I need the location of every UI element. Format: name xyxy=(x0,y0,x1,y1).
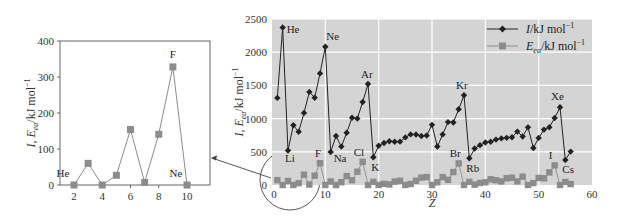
figure: 0100200300400 246810 HeFNe I, Eea/kJ mol… xyxy=(0,0,617,221)
y-tick-label: 2000 xyxy=(245,46,268,58)
ea-data-point xyxy=(301,172,307,178)
x-tick-label: 60 xyxy=(587,188,599,200)
inset-ea-data-point xyxy=(113,172,120,179)
ea-data-point xyxy=(455,160,461,166)
ea-data-point xyxy=(295,180,301,186)
inset-frame xyxy=(60,41,210,185)
ea-data-point xyxy=(311,172,317,178)
x-tick-label: 40 xyxy=(480,188,492,200)
inset-x-tick-label: 4 xyxy=(100,190,106,202)
element-label: Br xyxy=(450,147,461,159)
y-tick-label: 2500 xyxy=(245,13,268,25)
element-label: I xyxy=(549,149,553,161)
ea-data-point xyxy=(445,177,451,183)
inset-y-tick-label: 0 xyxy=(49,179,55,191)
inset-x-tick-label: 8 xyxy=(156,190,162,202)
inset-x-tick-label: 6 xyxy=(128,190,134,202)
y-tick-label: 1000 xyxy=(245,113,268,125)
element-label: Ar xyxy=(361,68,373,80)
inset-ea-data-point xyxy=(169,63,176,70)
ea-data-point xyxy=(349,177,355,183)
element-label: Xe xyxy=(551,90,564,102)
ea-data-point xyxy=(317,160,323,166)
ea-data-point xyxy=(541,175,547,181)
element-label: Cs xyxy=(562,163,574,175)
inset-x-tick-label: 10 xyxy=(182,190,194,202)
element-label: K xyxy=(371,161,379,173)
ea-data-point xyxy=(306,181,312,187)
ea-data-point xyxy=(423,174,429,180)
ea-data-point xyxy=(359,159,365,165)
element-label: Rb xyxy=(466,162,479,174)
element-label: Kr xyxy=(456,79,468,91)
inset-y-tick-label: 200 xyxy=(38,107,55,119)
y-tick-label: 1500 xyxy=(245,79,268,91)
square-marker-icon xyxy=(499,43,506,50)
inset-y-tick-label: 300 xyxy=(38,71,55,83)
inset-ea-data-point xyxy=(141,179,148,186)
inset-ea-data-point xyxy=(85,160,92,167)
ea-data-point xyxy=(338,179,344,185)
inset-ea-data-point xyxy=(99,182,106,189)
ea-data-point xyxy=(450,169,456,175)
element-label: Li xyxy=(285,152,295,164)
ea-data-point xyxy=(354,169,360,175)
inset-x-ticks: 246810 xyxy=(71,185,193,202)
x-tick-label: 20 xyxy=(373,188,385,200)
inset-ea-data-point xyxy=(71,182,78,189)
element-label: He xyxy=(287,23,300,35)
x-tick-label: 0 xyxy=(271,188,277,200)
inset-y-tick-label: 400 xyxy=(38,35,55,47)
element-label: Na xyxy=(334,152,347,164)
element-label: Ne xyxy=(326,30,339,42)
element-label: F xyxy=(315,147,321,159)
ea-data-point xyxy=(519,173,525,179)
ea-data-point xyxy=(546,169,552,175)
ea-data-point xyxy=(551,162,557,168)
ea-data-point xyxy=(567,181,573,187)
main-y-axis-label: I, Eea/kJ mol−1 xyxy=(231,67,248,137)
inset-x-tick-label: 2 xyxy=(71,190,77,202)
main-chart: 05001000150020002500 0102030405060 HeNeA… xyxy=(231,13,598,210)
x-tick-label: 50 xyxy=(533,188,545,200)
inset-y-axis-label: I, Eea/kJ mol−1 xyxy=(23,78,40,148)
main-x-axis-label: Z xyxy=(429,196,436,210)
element-label: Cl xyxy=(354,146,364,158)
inset-chart: 0100200300400 246810 HeFNe I, Eea/kJ mol… xyxy=(23,35,210,202)
inset-element-label: He xyxy=(57,167,70,179)
inset-element-label: Ne xyxy=(170,167,183,179)
y-tick-label: 500 xyxy=(251,146,268,158)
inset-y-tick-label: 100 xyxy=(38,143,55,155)
x-tick-label: 10 xyxy=(320,188,332,200)
inset-ea-data-point xyxy=(155,131,162,138)
inset-ea-data-point xyxy=(127,126,134,133)
inset-element-label: F xyxy=(170,48,176,60)
inset-ea-data-point xyxy=(184,182,191,189)
y-tick-label: 0 xyxy=(262,179,268,191)
